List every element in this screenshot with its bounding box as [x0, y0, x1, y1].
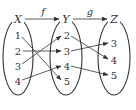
y-element-5: 5: [64, 76, 70, 87]
g-map-3-to-3: [71, 43, 108, 51]
z-element-3: 3: [111, 38, 117, 49]
y-element-3: 3: [64, 46, 70, 57]
y-element-2: 2: [64, 30, 70, 41]
z-element-4: 4: [111, 55, 117, 66]
z-element-5: 5: [111, 70, 117, 81]
x-element-3: 3: [15, 61, 21, 72]
y-element-4: 4: [64, 61, 70, 72]
x-element-4: 4: [15, 76, 21, 87]
set-z-label: Z: [109, 13, 118, 26]
function-g-label: g: [87, 6, 93, 17]
f-map-1-to-5: [22, 37, 61, 80]
x-element-2: 2: [15, 46, 21, 57]
function-f-label: f: [40, 6, 47, 17]
g-map-4-to-5: [71, 66, 108, 75]
function-mapping-diagram: X Y Z f g 1 2 3 4 2 3 4 5 3 4 5: [0, 0, 136, 110]
g-map-2-to-4: [71, 36, 108, 59]
x-element-1: 1: [15, 30, 21, 41]
set-x-label: X: [13, 13, 23, 26]
f-map-3-to-2: [22, 36, 61, 64]
